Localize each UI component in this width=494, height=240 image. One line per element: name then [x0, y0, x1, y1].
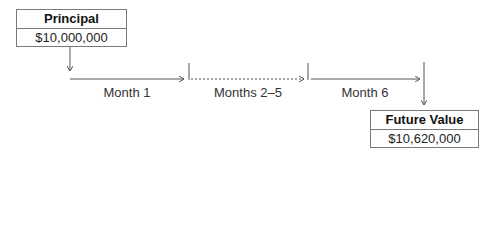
segment-label-month-1: Month 1 [67, 85, 187, 100]
segment-label-month-6: Month 6 [305, 85, 425, 100]
future-value-box: Future Value $10,620,000 [370, 110, 479, 148]
future-value-amount: $10,620,000 [371, 130, 478, 148]
segment-label-months-2-5: Months 2–5 [188, 85, 308, 100]
future-value-title: Future Value [371, 111, 478, 130]
